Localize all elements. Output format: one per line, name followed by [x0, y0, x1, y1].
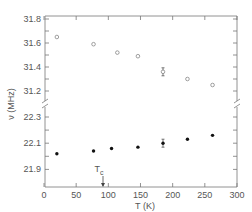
open-circle-marker: [116, 51, 120, 55]
y-tick-label: 22.3: [23, 112, 41, 122]
y-tick-label: 22.1: [23, 138, 41, 148]
arrow-down-icon: [101, 183, 105, 187]
y-tick-label: 21.9: [23, 164, 41, 174]
filled-circle-marker: [161, 142, 164, 145]
open-circle-marker: [55, 35, 59, 39]
filled-circle-marker: [92, 149, 95, 152]
x-tick-label: 50: [71, 190, 81, 200]
filled-circle-marker: [211, 134, 214, 137]
chart: 050100150200250300 31.831.631.431.222.32…: [0, 0, 252, 212]
filled-circle-marker: [136, 145, 139, 148]
x-tick-label: 150: [133, 190, 148, 200]
open-circle-marker: [211, 83, 215, 87]
x-tick-label: 0: [41, 190, 46, 200]
data-points: [55, 35, 214, 155]
svg-text:Tc: Tc: [95, 164, 105, 176]
x-tick-label: 250: [197, 190, 212, 200]
tc-annotation: Tc: [95, 164, 106, 187]
x-axis-title: T (K): [135, 201, 155, 211]
x-tick-label: 200: [165, 190, 180, 200]
open-circle-marker: [161, 70, 165, 74]
plot-frame: [42, 16, 240, 187]
y-axis-title: ν (MHz): [6, 88, 16, 120]
y-tick-label: 31.8: [23, 14, 41, 24]
filled-circle-marker: [55, 152, 58, 155]
open-circle-marker: [136, 54, 140, 58]
x-tick-label: 100: [101, 190, 116, 200]
open-circle-marker: [186, 77, 190, 81]
y-tick-label: 31.4: [23, 62, 41, 72]
open-circle-marker: [92, 42, 96, 46]
filled-circle-marker: [110, 147, 113, 150]
filled-circle-marker: [186, 138, 189, 141]
y-tick-label: 31.6: [23, 38, 41, 48]
y-tick-label: 31.2: [23, 86, 41, 96]
x-tick-label: 300: [229, 190, 244, 200]
x-axis-ticks: 050100150200250300: [41, 16, 244, 200]
